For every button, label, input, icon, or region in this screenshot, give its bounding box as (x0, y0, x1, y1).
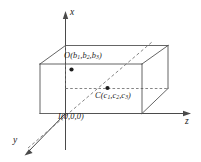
x-axis-label: x (70, 8, 74, 18)
point-label-origin: I(0,0,0) (58, 113, 84, 121)
point-label-upper: O(b1,b2,b3) (64, 52, 102, 61)
point-upper-close-paren: ) (99, 51, 102, 60)
y-axis-label: y (13, 136, 17, 146)
y-axis-arrowhead (25, 149, 33, 155)
box-edge-top-left-receding (40, 46, 66, 65)
box-edge-top-right-receding (142, 46, 168, 65)
axis-group (25, 11, 192, 156)
point-marker-upper (69, 67, 73, 71)
point-markers (69, 67, 109, 90)
point-marker-inner (105, 86, 109, 90)
z-axis-label-text: z (185, 116, 189, 126)
z-axis-label: z (185, 117, 189, 127)
box-visible-edges (40, 46, 168, 114)
x-axis-arrowhead (63, 11, 68, 19)
x-axis-label-text: x (70, 7, 74, 17)
point-label-inner: C(c1,c2,c3) (95, 92, 131, 101)
geometry-diagram (0, 0, 201, 162)
origin-close-paren: ) (81, 112, 84, 121)
box-edge-bottom-right-receding (142, 89, 168, 114)
y-axis-label-text: y (13, 135, 17, 145)
figure-container: x y z O(b1,b2,b3) C(c1,c2,c3) I(0,0,0) (0, 0, 201, 162)
point-inner-close-paren: ) (128, 91, 131, 100)
